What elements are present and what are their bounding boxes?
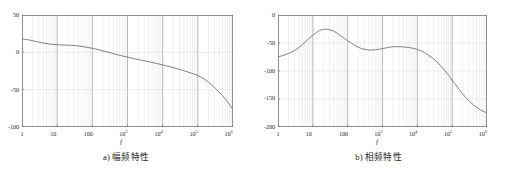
xtick-label: 105	[438, 131, 458, 137]
xtick-label: 103	[113, 131, 133, 137]
ytick-label: 0	[0, 49, 19, 55]
xtick-label: 100	[78, 131, 98, 137]
xtick-label: 105	[184, 131, 204, 137]
xtick-label: 103	[368, 131, 388, 137]
ytick-label: 50	[0, 12, 19, 18]
panel-amplitude: 50 0 -50 -100 1 10 100 103 104 105 106 f…	[0, 0, 252, 178]
plot-area-phase	[278, 15, 487, 127]
figure-container: 50 0 -50 -100 1 10 100 103 104 105 106 f…	[0, 0, 505, 178]
x-axis-label: f	[376, 139, 378, 146]
xtick-label: 1	[12, 131, 32, 137]
xtick-label: 106	[473, 131, 493, 137]
ytick-label: -100	[0, 124, 19, 130]
ytick-label: 0	[252, 12, 275, 18]
ytick-label: -100	[252, 68, 275, 74]
ytick-label: -50	[252, 40, 275, 46]
panel-caption-b: b) 相频特性	[252, 152, 505, 163]
plot-area-amplitude	[22, 15, 233, 127]
ytick-label: -200	[252, 124, 275, 130]
xtick-label: 10	[299, 131, 319, 137]
xtick-label: 100	[334, 131, 354, 137]
bode-magnitude-chart	[22, 15, 233, 127]
ytick-label: -150	[252, 95, 275, 101]
xtick-label: 10	[43, 131, 63, 137]
xtick-label: 104	[149, 131, 169, 137]
panel-caption-a: a) 幅频特性	[0, 152, 252, 163]
ytick-label: -50	[0, 87, 19, 93]
bode-phase-chart	[278, 15, 487, 127]
x-axis-label: f	[120, 139, 122, 146]
panel-phase: 0 -50 -100 -150 -200 1 10 100 103 104 10…	[252, 0, 505, 178]
xtick-label: 106	[219, 131, 239, 137]
xtick-label: 1	[268, 131, 288, 137]
xtick-label: 104	[403, 131, 423, 137]
